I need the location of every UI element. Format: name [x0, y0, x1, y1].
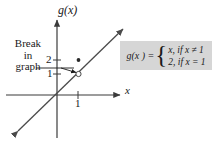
- break-annotation-line-3: graph: [4, 61, 52, 73]
- y-axis-label: g(x): [58, 4, 77, 16]
- equation-case-2: 2, if x = 1: [168, 56, 205, 68]
- equation-content: g(x ) = { x, if x ≠ 1 2, if x = 1: [120, 41, 212, 70]
- open-circle-point: [76, 71, 81, 76]
- equation-callout-box: g(x ) = { x, if x ≠ 1 2, if x = 1: [120, 41, 212, 70]
- break-in-graph-annotation: Break in graph: [4, 38, 52, 73]
- filled-dot-point: [77, 58, 81, 62]
- equation-case-1: x, if x ≠ 1: [168, 44, 205, 56]
- x-axis-label: x: [125, 85, 130, 96]
- equation-brace: {: [155, 45, 168, 67]
- break-annotation-line-1: Break: [4, 38, 52, 50]
- equation-cases: x, if x ≠ 1 2, if x = 1: [168, 44, 205, 68]
- piecewise-graph-figure: g(x) x 2 1 1 Break in graph g(x ) = { x,…: [0, 0, 218, 142]
- equation-lhs: g(x ) =: [126, 50, 155, 61]
- x-tick-label-1: 1: [75, 98, 81, 109]
